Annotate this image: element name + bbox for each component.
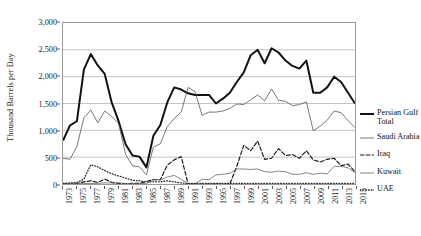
- y-tick-mark: [57, 185, 60, 186]
- x-tick-mark: [328, 186, 329, 189]
- legend-label: Kuwait: [377, 167, 401, 176]
- legend-label: Iraq: [377, 149, 390, 158]
- x-tick-label: 1991: [191, 188, 200, 204]
- x-tick-label: 2007: [303, 188, 312, 204]
- x-tick-label: 2013: [345, 188, 354, 204]
- y-tick-label: 1,500: [39, 99, 57, 108]
- x-tick-label: 1993: [205, 188, 214, 204]
- legend-line-swatch: [360, 149, 374, 161]
- y-tick-mark: [57, 157, 60, 158]
- x-tick-label: 2003: [275, 188, 284, 204]
- x-tick-mark: [160, 186, 161, 189]
- y-tick-label: 2,000: [39, 72, 57, 81]
- legend-label: Persian Gulf Total: [377, 108, 421, 126]
- x-tick-mark: [174, 186, 175, 189]
- x-tick-mark: [188, 186, 189, 189]
- series-line-iraq: [63, 141, 355, 184]
- legend-item-iraq[interactable]: Iraq: [360, 149, 421, 161]
- y-axis-title: Thousand Barrels per Day: [2, 0, 18, 195]
- legend-item-kuwait[interactable]: Kuwait: [360, 167, 421, 179]
- chart-legend: Persian Gulf TotalSaudi ArabiaIraqKuwait…: [360, 108, 421, 202]
- x-tick-mark: [216, 186, 217, 189]
- y-tick-mark: [57, 103, 60, 104]
- y-tick-label: 1,000: [39, 126, 57, 135]
- series-line-saudi-arabia: [63, 87, 355, 174]
- x-tick-label: 1985: [149, 188, 158, 204]
- x-tick-mark: [286, 186, 287, 189]
- x-tick-label: 2009: [317, 188, 326, 204]
- legend-label: Saudi Arabia: [377, 132, 420, 141]
- x-tick-mark: [132, 186, 133, 189]
- legend-item-saudi-arabia[interactable]: Saudi Arabia: [360, 132, 421, 144]
- chart-lines: [63, 23, 355, 184]
- y-tick-mark: [57, 22, 60, 23]
- x-tick-label: 2005: [289, 188, 298, 204]
- x-tick-mark: [90, 186, 91, 189]
- y-tick-mark: [57, 76, 60, 77]
- series-line-kuwait: [63, 166, 355, 184]
- x-tick-mark: [230, 186, 231, 189]
- legend-item-uae[interactable]: UAE: [360, 184, 421, 196]
- y-tick-mark: [57, 49, 60, 50]
- x-axis-ticks: 1973197519771979198119831985198719891991…: [62, 186, 356, 232]
- x-tick-label: 1987: [163, 188, 172, 204]
- x-tick-label: 2011: [331, 188, 340, 204]
- x-tick-label: 1997: [233, 188, 242, 204]
- legend-line-swatch: [360, 108, 374, 120]
- x-tick-mark: [104, 186, 105, 189]
- x-tick-mark: [244, 186, 245, 189]
- y-tick-mark: [57, 130, 60, 131]
- y-tick-label: 500: [45, 153, 57, 162]
- x-tick-mark: [356, 186, 357, 189]
- x-tick-label: 1995: [219, 188, 228, 204]
- x-tick-mark: [342, 186, 343, 189]
- legend-line-swatch: [360, 184, 374, 196]
- x-tick-label: 1977: [93, 188, 102, 204]
- legend-line-swatch: [360, 167, 374, 179]
- x-tick-mark: [314, 186, 315, 189]
- x-tick-label: 1981: [121, 188, 130, 204]
- x-tick-label: 1983: [135, 188, 144, 204]
- x-tick-mark: [146, 186, 147, 189]
- plot-area: [62, 22, 356, 185]
- legend-label: UAE: [377, 184, 394, 193]
- x-tick-label: 1999: [247, 188, 256, 204]
- y-axis-ticks: 05001,0001,5002,0002,5003,000: [18, 14, 60, 190]
- x-tick-label: 1989: [177, 188, 186, 204]
- x-tick-mark: [62, 186, 63, 189]
- legend-line-swatch: [360, 132, 374, 144]
- x-tick-mark: [272, 186, 273, 189]
- y-tick-label: 2,500: [39, 45, 57, 54]
- x-tick-label: 1979: [107, 188, 116, 204]
- x-tick-label: 1973: [65, 188, 74, 204]
- x-tick-label: 1975: [79, 188, 88, 204]
- x-tick-mark: [202, 186, 203, 189]
- chart-figure: Thousand Barrels per Day 05001,0001,5002…: [0, 0, 421, 236]
- x-tick-label: 2001: [261, 188, 270, 204]
- y-tick-label: 3,000: [39, 18, 57, 27]
- x-tick-mark: [76, 186, 77, 189]
- x-tick-mark: [300, 186, 301, 189]
- series-line-persian-gulf-total: [63, 48, 355, 167]
- x-tick-mark: [118, 186, 119, 189]
- x-tick-mark: [258, 186, 259, 189]
- legend-item-persian-gulf-total[interactable]: Persian Gulf Total: [360, 108, 421, 126]
